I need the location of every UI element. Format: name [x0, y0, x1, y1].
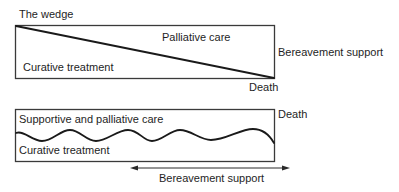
wedge-curative-treatment-label: Curative treatment [23, 61, 113, 74]
arrow-right-head-icon [282, 166, 290, 171]
wedge-title: The wedge [19, 8, 73, 21]
care-models-diagram: The wedge Palliative care Curative treat… [0, 0, 399, 192]
wave-divider-curve [16, 129, 274, 143]
wave-supportive-palliative-care-label: Supportive and palliative care [19, 113, 163, 126]
wedge-death-label: Death [249, 81, 278, 94]
wave-death-label: Death [278, 108, 307, 121]
wave-bereavement-support-label: Bereavement support [159, 172, 264, 185]
arrow-left-head-icon [130, 166, 138, 171]
wedge-bereavement-support-label: Bereavement support [278, 46, 383, 59]
wedge-palliative-care-label: Palliative care [162, 31, 230, 44]
wave-curative-treatment-label: Curative treatment [19, 144, 109, 157]
diagram-canvas [0, 0, 399, 192]
